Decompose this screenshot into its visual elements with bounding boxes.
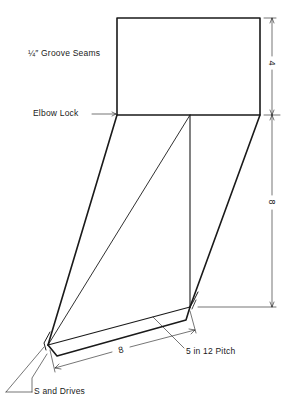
dimension-8-bottom [50,311,196,372]
dimension-8-vertical [198,115,276,307]
left-slanted-edge [48,115,117,345]
groove-seams-label: ¼″ Groove Seams [28,48,100,58]
right-slanted-edge [190,115,260,307]
dimension-8-bottom-label: 8 [117,345,124,356]
dimension-4-label: 4 [267,60,277,65]
inner-diagonal-line [48,115,190,345]
elbow-lock-leader [92,112,116,116]
duct-elbow-diagram: 4 8 8 [0,0,292,410]
elbow-lock-label: Elbow Lock [33,108,78,118]
pitch-label: 5 in 12 Pitch [186,346,235,356]
dimension-4 [264,18,280,115]
top-rectangle [117,18,260,115]
dimension-8-vertical-label: 8 [267,199,277,204]
s-and-drives-label: S and Drives [34,386,85,396]
